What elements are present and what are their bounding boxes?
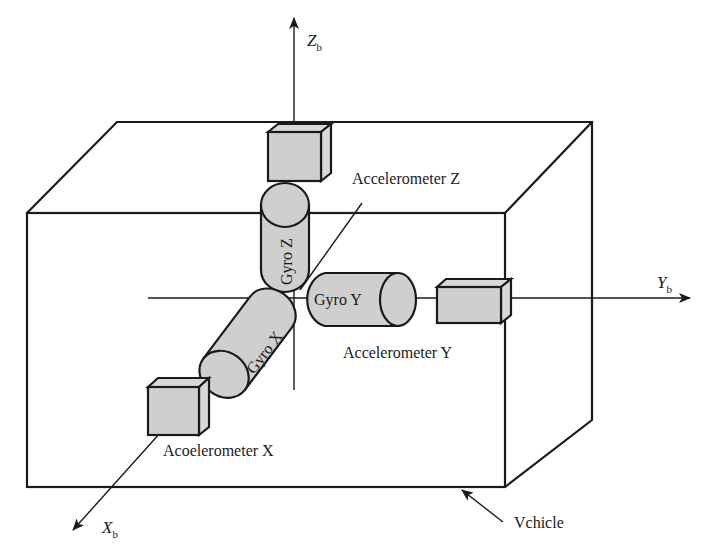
accelerometer-z-cube — [268, 124, 331, 181]
y-axis-label: Yb — [657, 273, 672, 295]
z-axis-label: Zb — [307, 31, 322, 53]
x-axis-label: Xb — [101, 518, 118, 540]
vehicle-pointer — [462, 490, 503, 522]
accelerometer-y-label: Accelerometer Y — [343, 344, 453, 361]
vehicle-label: Vchicle — [514, 514, 564, 531]
accelerometer-y-cube — [437, 279, 511, 323]
accelerometer-x-cube — [148, 378, 209, 435]
imu-diagram: Zb Yb Xb Accelerometer Z Gyro Z Gyro Y A… — [0, 0, 703, 550]
gyro-z-label: Gyro Z — [278, 238, 296, 285]
accelerometer-x-label: Acoelerometer X — [163, 442, 274, 459]
accelerometer-z-label: Accelerometer Z — [352, 170, 460, 187]
gyro-y-label: Gyro Y — [314, 291, 362, 309]
